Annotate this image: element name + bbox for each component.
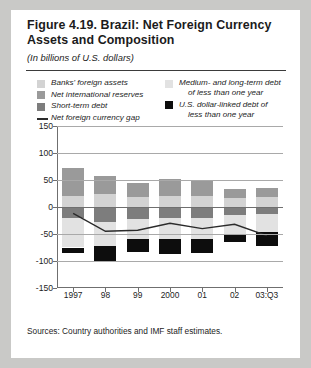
legend-column-left: Banks' foreign assetsNet international r… [37, 78, 157, 125]
legend-label: Net international reserves [51, 90, 157, 100]
legend-label: Short-term debt [51, 101, 157, 111]
chart-legend: Banks' foreign assetsNet international r… [37, 78, 287, 124]
legend-item: U.S. dollar-linked debt ofless than one … [165, 100, 291, 121]
legend-item: Net foreign currency gap [37, 113, 157, 124]
legend-swatch [165, 101, 173, 109]
x-axis-tick-label: 03:Q3 [255, 290, 278, 300]
y-axis-tick-label: 50 [43, 175, 53, 185]
legend-item: Net international reserves [37, 90, 157, 101]
y-axis-tick [53, 126, 57, 127]
legend-swatch [165, 80, 173, 88]
y-axis-tick-label: -100 [36, 256, 53, 266]
figure-subtitle: (In billions of U.S. dollars) [27, 52, 277, 63]
legend-swatch [37, 91, 45, 99]
x-axis-labels: 199798992000010203:Q3 [57, 290, 283, 304]
y-axis-tick [53, 288, 57, 289]
legend-label: Banks' foreign assets [51, 78, 157, 88]
x-axis-tick-label: 2000 [161, 290, 180, 300]
x-axis-tick-label: 1997 [64, 290, 83, 300]
y-axis-tick [53, 180, 57, 181]
y-axis-tick-label: -50 [41, 229, 53, 239]
y-axis-tick [53, 153, 57, 154]
plot-canvas [57, 126, 283, 288]
legend-item: Medium- and long-term debtof less than o… [165, 78, 291, 99]
x-axis-tick-label: 99 [133, 290, 142, 300]
legend-label: Medium- and long-term debt [179, 78, 291, 88]
legend-item: Banks' foreign assets [37, 78, 157, 89]
legend-column-right: Medium- and long-term debtof less than o… [165, 78, 291, 122]
y-axis-tick [53, 261, 57, 262]
y-axis-tick [53, 207, 57, 208]
x-axis-tick-label: 01 [198, 290, 207, 300]
legend-item: Short-term debt [37, 101, 157, 112]
gridline [57, 180, 283, 181]
legend-label-continued: less than one year [179, 110, 291, 120]
y-axis-tick-label: 100 [39, 148, 53, 158]
y-axis-labels: 150100500-50-100-150 [27, 126, 53, 288]
chart-plot-area: 150100500-50-100-150 199798992000010203:… [27, 126, 285, 306]
figure-title: Figure 4.19. Brazil: Net Foreign Currenc… [27, 18, 285, 48]
gridline [57, 207, 283, 208]
legend-line-marker [37, 118, 48, 120]
gridline [57, 126, 283, 127]
y-axis-tick-label: 150 [39, 121, 53, 131]
gridline [57, 261, 283, 262]
gridline [57, 234, 283, 235]
gridline [57, 153, 283, 154]
header-divider [26, 70, 286, 71]
legend-swatch [37, 80, 45, 88]
x-axis-tick-label: 02 [230, 290, 239, 300]
gap-line-path [73, 213, 267, 235]
figure-card: Figure 4.19. Brazil: Net Foreign Currenc… [11, 10, 300, 358]
x-axis-tick-label: 98 [101, 290, 110, 300]
legend-label-continued: of less than one year [179, 88, 291, 98]
y-axis-tick-label: -150 [36, 283, 53, 293]
legend-label: U.S. dollar-linked debt of [179, 100, 291, 110]
source-note: Sources: Country authorities and IMF sta… [27, 326, 285, 336]
y-axis-tick [53, 234, 57, 235]
legend-swatch [37, 103, 45, 111]
legend-label: Net foreign currency gap [51, 113, 157, 123]
